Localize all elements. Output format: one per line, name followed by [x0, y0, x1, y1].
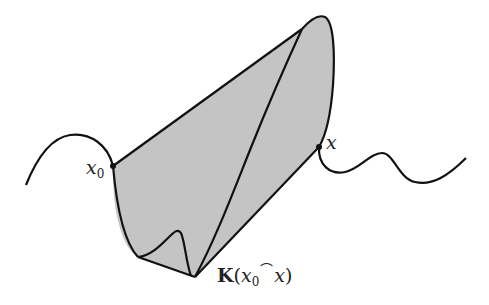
label-k-sub: 0: [252, 275, 260, 289]
label-k-open: (: [234, 264, 241, 286]
cone-surface: [113, 16, 334, 277]
label-x0-var: x: [86, 156, 97, 178]
label-cone: K(x0⌒x): [217, 264, 292, 289]
label-k-var1: x: [241, 264, 252, 286]
label-k-symbol: K: [217, 264, 234, 286]
diagram-canvas: [0, 0, 489, 305]
label-x0-sub: 0: [97, 167, 105, 181]
point-x0: [110, 163, 116, 169]
label-k-arc: ⌒: [260, 262, 273, 277]
label-x0: x0: [86, 156, 104, 181]
label-x-var: x: [326, 131, 337, 153]
label-k-close: ): [285, 264, 292, 286]
label-x: x: [326, 131, 337, 153]
label-k-var2: x: [274, 264, 285, 286]
point-x: [316, 144, 322, 150]
right-curve: [319, 147, 466, 183]
